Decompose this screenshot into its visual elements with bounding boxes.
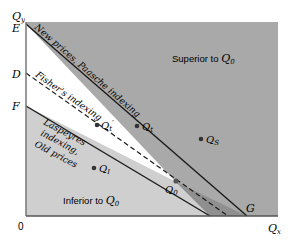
tick-f: F: [11, 100, 20, 113]
inferior-label: Inferior to Q0: [63, 194, 120, 208]
index-diagram: Qy E D F 0 Qx G Superior to Q0 Inferior …: [0, 0, 303, 240]
point-qs: [199, 137, 204, 142]
tick-e: E: [11, 22, 20, 35]
tick-g: G: [246, 202, 255, 215]
point-qt: [135, 124, 140, 129]
x-axis-label: Qx: [268, 222, 281, 236]
point-qi: [92, 166, 97, 171]
point-qt-prime: [95, 123, 100, 128]
point-q0: [173, 178, 178, 183]
tick-d: D: [11, 68, 21, 81]
superior-label: Superior to Q0: [172, 52, 235, 66]
origin-label: 0: [18, 221, 24, 232]
